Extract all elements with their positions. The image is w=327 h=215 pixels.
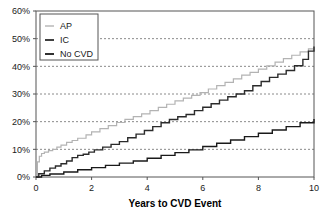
x-tick-label: 0 xyxy=(33,183,38,193)
x-tick-label: 6 xyxy=(200,183,205,193)
legend-label-no-cvd: No CVD xyxy=(60,49,94,59)
x-axis-title: Years to CVD Event xyxy=(129,198,222,209)
chart-legend: APICNo CVD xyxy=(40,14,98,60)
y-tick-label: 30% xyxy=(12,89,30,99)
y-tick-label: 20% xyxy=(12,117,30,127)
y-tick-label: 50% xyxy=(12,34,30,44)
y-tick-label: 40% xyxy=(12,62,30,72)
x-tick-label: 8 xyxy=(256,183,261,193)
legend-label-ap: AP xyxy=(60,21,72,31)
cumulative-incidence-chart: 0%10%20%30%40%50%60% 0246810 Years to CV… xyxy=(0,0,327,215)
chart-svg: 0%10%20%30%40%50%60% 0246810 Years to CV… xyxy=(0,0,327,215)
x-tick-label: 2 xyxy=(89,183,94,193)
x-tick-label: 10 xyxy=(309,183,319,193)
x-tick-label: 4 xyxy=(145,183,150,193)
legend-label-ic: IC xyxy=(60,35,70,45)
y-tick-label: 0% xyxy=(17,172,30,182)
y-tick-label: 10% xyxy=(12,145,30,155)
y-tick-label: 60% xyxy=(12,6,30,16)
